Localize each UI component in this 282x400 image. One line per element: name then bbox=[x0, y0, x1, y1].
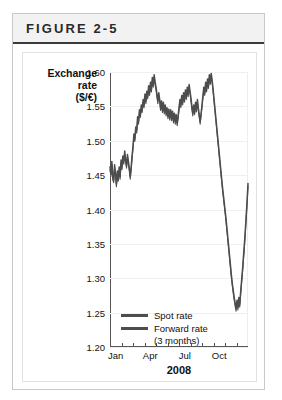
legend-label-spot-rate: Spot rate bbox=[154, 310, 193, 321]
x-tick-label: Jan bbox=[108, 350, 123, 361]
chart-legend: Spot rate Forward rate (3 months) bbox=[121, 309, 208, 347]
chart-plot-area: 1.601.551.501.451.401.351.301.251.20 Jan… bbox=[110, 72, 248, 347]
y-tick-label: 1.20 bbox=[87, 342, 106, 353]
figure-title: FIGURE 2-5 bbox=[26, 21, 119, 36]
legend-sublabel-forward-rate: (3 months) bbox=[154, 335, 208, 347]
y-axis-title-line-2: rate bbox=[25, 79, 97, 91]
figure-card: FIGURE 2-5 Exchange rate ($/€) 1.601.551… bbox=[12, 13, 265, 390]
legend-label-forward-rate: Forward rate bbox=[154, 323, 208, 334]
legend-swatch-forward-rate bbox=[121, 327, 148, 330]
series-lines bbox=[110, 72, 248, 347]
y-tick-label: 1.30 bbox=[87, 273, 106, 284]
y-tick-label: 1.50 bbox=[87, 135, 106, 146]
x-axis-label: 2008 bbox=[110, 364, 248, 376]
y-tick-label: 1.45 bbox=[87, 170, 106, 181]
x-tick-label: Oct bbox=[212, 350, 227, 361]
x-tick-label: Apr bbox=[143, 350, 158, 361]
figure-header-band: FIGURE 2-5 bbox=[13, 14, 264, 44]
y-tick-label: 1.35 bbox=[87, 238, 106, 249]
x-tick-label: Jul bbox=[179, 350, 191, 361]
y-tick-label: 1.40 bbox=[87, 204, 106, 215]
y-tick-label: 1.25 bbox=[87, 307, 106, 318]
series-line-forward-rate bbox=[110, 76, 248, 311]
legend-swatch-spot-rate bbox=[121, 314, 148, 317]
y-tick-label: 1.55 bbox=[87, 101, 106, 112]
gridline bbox=[110, 347, 248, 348]
legend-item-forward-rate: Forward rate bbox=[121, 322, 208, 335]
legend-item-spot-rate: Spot rate bbox=[121, 309, 208, 322]
y-tick-label: 1.60 bbox=[87, 67, 106, 78]
plot-panel: Exchange rate ($/€) 1.601.551.501.451.40… bbox=[22, 52, 257, 382]
